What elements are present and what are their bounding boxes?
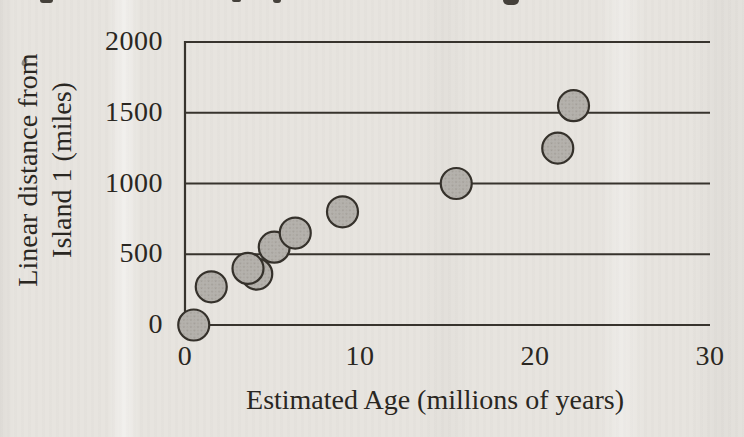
data-point [327,196,358,227]
data-point [233,253,264,284]
scanned-page: Linear distance from Island 1 (miles) 20… [0,0,744,437]
data-point [441,168,472,199]
plot-area [0,0,744,437]
data-point [196,271,227,302]
x-axis-title: Estimated Age (millions of years) [160,384,710,416]
data-point [558,90,589,121]
data-point [280,218,311,249]
data-point [178,310,209,341]
data-point [542,133,573,164]
